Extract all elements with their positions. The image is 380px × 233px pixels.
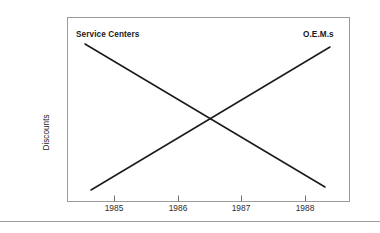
chart-figure: Service Centers O.E.M.s Discounts 1985 1…: [0, 0, 380, 233]
footer-divider: [0, 221, 380, 222]
series-label-service-centers: Service Centers: [76, 30, 139, 39]
x-tick-label-1988: 1988: [296, 203, 315, 213]
x-tick-label-1987: 1987: [232, 203, 251, 213]
plot-area-frame: [67, 17, 350, 202]
series-label-oems: O.E.M.s: [303, 30, 334, 39]
y-axis-title: Discounts: [0, 92, 64, 101]
x-tick-label-1985: 1985: [105, 203, 124, 213]
y-axis-title-text: Discounts: [43, 115, 52, 151]
x-tick-label-1986: 1986: [169, 203, 188, 213]
